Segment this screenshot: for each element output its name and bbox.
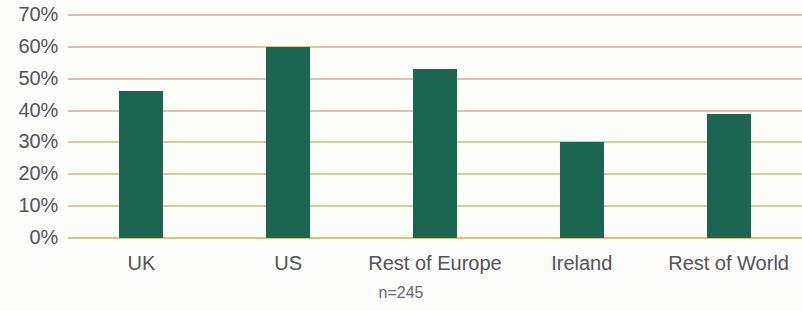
- bar: [560, 142, 604, 238]
- x-axis-category-labels: UKUSRest of EuropeIrelandRest of World: [0, 248, 802, 282]
- gridline: [68, 46, 802, 48]
- x-axis-category-label: Rest of World: [655, 248, 802, 278]
- bar: [266, 47, 310, 238]
- y-axis-tick-label: 20%: [0, 163, 58, 183]
- x-axis-category-label: US: [215, 248, 362, 278]
- bar: [119, 91, 163, 238]
- y-axis-tick-label: 40%: [0, 100, 58, 120]
- x-axis-category-label: Ireland: [508, 248, 655, 278]
- y-axis-tick-label: 50%: [0, 68, 58, 88]
- gridline: [68, 14, 802, 16]
- y-axis-tick-label: 10%: [0, 195, 58, 215]
- bar-chart: 70%60%50%40%30%20%10%0% UKUSRest of Euro…: [0, 0, 802, 311]
- y-axis-tick-label: 0%: [0, 227, 58, 247]
- bar: [707, 114, 751, 238]
- y-axis-tick-label: 70%: [0, 4, 58, 24]
- sample-size-annotation: n=245: [0, 283, 802, 303]
- bar: [413, 69, 457, 238]
- y-axis-tick-label: 30%: [0, 131, 58, 151]
- plot-area: 70%60%50%40%30%20%10%0%: [0, 0, 802, 250]
- y-axis-tick-label: 60%: [0, 36, 58, 56]
- x-axis-category-label: UK: [68, 248, 215, 278]
- x-axis-category-label: Rest of Europe: [362, 248, 509, 278]
